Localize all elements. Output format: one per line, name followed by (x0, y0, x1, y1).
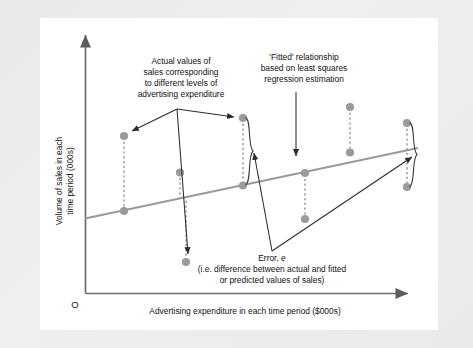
leader-arrow-to-right-point (177, 109, 234, 117)
data-point[interactable] (176, 168, 184, 176)
data-point[interactable] (120, 207, 128, 215)
y-axis-label: Volume of sales in each time period (000… (54, 136, 75, 225)
actual-values-leader-lines (132, 109, 234, 254)
error-line-2: (i.e. difference between actual and fitt… (198, 264, 347, 274)
error-brace-right (410, 123, 418, 188)
error-arrow-to-right-brace (272, 157, 412, 251)
regression-scatter-figure: O Advertising expenditure in each time p… (40, 18, 438, 330)
error-arrow-to-middle-brace (254, 153, 272, 251)
error-line-3: or predicted values of sales) (220, 275, 325, 285)
annotation-error: Error, e (i.e. difference between actual… (198, 253, 347, 285)
y-axis-label-line-1: Volume of sales in each (54, 136, 64, 225)
leader-arrow-to-lower-point (177, 109, 188, 254)
axes-group (86, 35, 409, 294)
error-label-text: Error, (258, 253, 281, 263)
x-axis-label: Advertising expenditure in each time per… (149, 306, 341, 316)
error-brace-middle (246, 118, 254, 186)
actual-values-line-3: to different levels of (145, 78, 218, 88)
residual-connectors (124, 108, 407, 261)
data-point[interactable] (239, 181, 247, 189)
data-point[interactable] (346, 148, 354, 156)
leader-arrow-to-upper-left-point (132, 109, 177, 131)
data-point[interactable] (301, 215, 309, 223)
fitted-relationship-line-1: 'Fitted' relationship (269, 52, 339, 62)
error-symbol: e (281, 253, 286, 263)
error-line-1: Error, e (258, 253, 286, 263)
origin-label: O (71, 299, 78, 310)
error-leader-lines (254, 153, 412, 251)
data-point[interactable] (346, 103, 354, 111)
y-axis-label-line-2: time period (000s) (65, 147, 75, 215)
data-point[interactable] (301, 169, 309, 177)
data-points-group (120, 103, 411, 266)
figure-card: O Advertising expenditure in each time p… (40, 18, 438, 330)
fitted-relationship-line-3: regression estimation (264, 74, 344, 84)
actual-values-line-1: Actual values of (151, 56, 211, 66)
annotation-fitted-relationship: 'Fitted' relationship based on least squ… (261, 52, 348, 156)
screenshot-page: O Advertising expenditure in each time p… (0, 0, 473, 348)
data-point[interactable] (182, 258, 190, 266)
data-point[interactable] (120, 132, 128, 140)
fitted-relationship-line-2: based on least squares (261, 63, 348, 73)
actual-values-line-2: sales corresponding (144, 67, 219, 77)
actual-values-line-4: advertising expenditure (138, 89, 225, 99)
annotation-actual-values: Actual values of sales corresponding to … (138, 56, 225, 99)
fitted-regression-line (85, 148, 418, 219)
